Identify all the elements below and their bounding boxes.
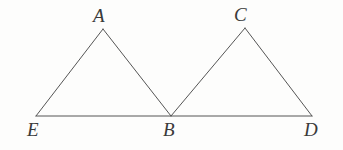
segment-cd: [245, 28, 312, 116]
vertex-label-d: D: [304, 120, 318, 139]
vertex-label-e: E: [27, 120, 39, 139]
vertex-label-b: B: [163, 120, 175, 139]
vertex-label-a: A: [93, 6, 105, 25]
segment-ab: [103, 29, 171, 116]
segment-ea: [36, 29, 103, 116]
segment-bc: [171, 28, 245, 116]
segment-group: [36, 28, 312, 116]
geometry-figure: ACEBD: [0, 0, 343, 150]
vertex-label-c: C: [234, 5, 247, 24]
